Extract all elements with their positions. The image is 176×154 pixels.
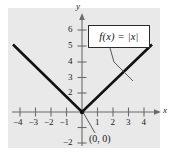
x-tick-label-1: 1 xyxy=(95,118,100,127)
x-axis-arrowhead xyxy=(154,109,161,115)
y-tick-label-6: 6 xyxy=(68,25,73,34)
y-tick-label-minus-2: −2 xyxy=(63,138,73,147)
y-tick-label-2: 2 xyxy=(68,88,73,97)
function-equation-text: f(x) = |x| xyxy=(99,31,138,42)
x-tick-label-3: 3 xyxy=(126,118,131,127)
origin-vertex-point xyxy=(80,110,84,114)
x-tick-label-minus-1: −1 xyxy=(60,118,70,127)
x-tick-label-4: 4 xyxy=(142,118,147,127)
y-tick-label-5: 5 xyxy=(68,41,73,50)
x-axis-title: x xyxy=(163,106,167,115)
origin-point-label: (0, 0) xyxy=(89,134,111,144)
x-tick-label-minus-3: −3 xyxy=(29,118,39,127)
origin-leader-line xyxy=(84,113,96,133)
function-equation-callout: f(x) = |x| xyxy=(88,25,150,48)
y-axis-title: y xyxy=(76,2,80,11)
absolute-value-function-graph: y x 6 5 4 3 2 −2 −4 −3 −2 −1 1 2 3 4 (0,… xyxy=(0,0,176,154)
y-tick-label-3: 3 xyxy=(68,73,73,82)
y-tick-label-4: 4 xyxy=(68,57,73,66)
x-tick-label-minus-4: −4 xyxy=(13,118,23,127)
x-tick-label-2: 2 xyxy=(111,118,116,127)
x-tick-label-minus-2: −2 xyxy=(44,118,54,127)
y-axis-arrowhead xyxy=(79,13,85,20)
graph-canvas xyxy=(0,0,176,154)
